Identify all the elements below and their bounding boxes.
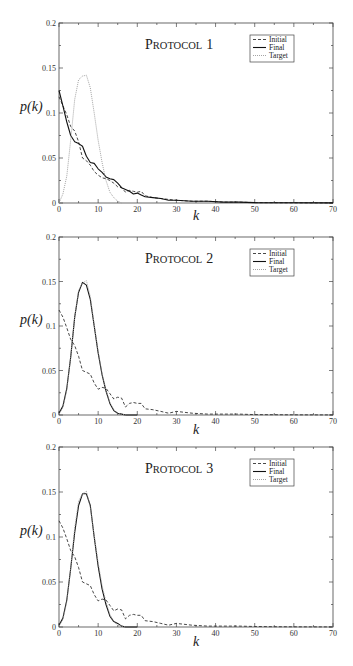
x-tick-label: 50	[251, 417, 259, 426]
x-axis-label: k	[193, 208, 200, 223]
x-tick-label: 30	[172, 417, 180, 426]
x-tick-label: 40	[212, 629, 220, 638]
y-tick-label: 0	[52, 411, 56, 420]
y-axis-label: p(k)	[19, 523, 43, 539]
series-target	[59, 281, 126, 415]
y-tick-label: 0.15	[42, 278, 56, 287]
x-tick-label: 70	[329, 205, 337, 214]
x-tick-label: 20	[133, 417, 141, 426]
panel-title: PROTOCOL3	[145, 461, 213, 476]
x-tick-label: 40	[212, 417, 220, 426]
x-tick-label: 50	[251, 205, 259, 214]
panel-title: PROTOCOL1	[145, 37, 213, 52]
legend-item-target: Target	[269, 265, 289, 274]
y-tick-label: 0.1	[46, 109, 56, 118]
y-tick-label: 0.05	[42, 367, 56, 376]
x-tick-label: 0	[57, 417, 61, 426]
x-tick-label: 20	[133, 629, 141, 638]
legend-item-target: Target	[269, 51, 289, 60]
y-tick-label: 0.15	[42, 488, 56, 497]
y-tick-label: 0.05	[42, 154, 56, 163]
legend: InitialFinalTarget	[250, 459, 294, 486]
y-axis-label: p(k)	[19, 312, 43, 328]
panel-3: 01020304050607000.050.10.150.2kp(k)PROTO…	[19, 443, 337, 649]
x-tick-label: 50	[251, 629, 259, 638]
legend: InitialFinalTarget	[250, 35, 294, 62]
y-tick-label: 0.15	[42, 64, 56, 73]
series-target	[59, 75, 122, 203]
x-tick-label: 10	[94, 417, 102, 426]
x-tick-label: 0	[57, 629, 61, 638]
y-tick-label: 0.2	[46, 19, 56, 28]
x-axis-label: k	[193, 634, 200, 649]
x-tick-label: 60	[290, 417, 298, 426]
legend-item-target: Target	[269, 475, 289, 484]
y-tick-label: 0.05	[42, 578, 56, 587]
series-final	[59, 282, 137, 415]
series-target	[59, 491, 126, 627]
y-tick-label: 0.2	[46, 233, 56, 242]
y-tick-label: 0.2	[46, 443, 56, 452]
panel-1: 01020304050607000.050.10.150.2kp(k)PROTO…	[19, 19, 337, 223]
y-tick-label: 0	[52, 623, 56, 632]
y-tick-label: 0.1	[46, 322, 56, 331]
figure: 01020304050607000.050.10.150.2kp(k)PROTO…	[0, 0, 353, 666]
x-tick-label: 10	[94, 205, 102, 214]
x-tick-label: 60	[290, 629, 298, 638]
x-tick-label: 30	[172, 205, 180, 214]
x-tick-label: 0	[57, 205, 61, 214]
y-axis-label: p(k)	[19, 99, 43, 115]
legend: InitialFinalTarget	[250, 249, 294, 276]
y-tick-label: 0.1	[46, 533, 56, 542]
x-tick-label: 70	[329, 417, 337, 426]
x-tick-label: 40	[212, 205, 220, 214]
x-tick-label: 60	[290, 205, 298, 214]
x-axis-label: k	[193, 422, 200, 437]
y-tick-label: 0	[52, 199, 56, 208]
series-final	[59, 91, 333, 203]
x-tick-label: 10	[94, 629, 102, 638]
x-tick-label: 20	[133, 205, 141, 214]
x-tick-label: 70	[329, 629, 337, 638]
panel-2: 01020304050607000.050.10.150.2kp(k)PROTO…	[19, 233, 337, 437]
panel-title: PROTOCOL2	[145, 251, 213, 266]
x-tick-label: 30	[172, 629, 180, 638]
